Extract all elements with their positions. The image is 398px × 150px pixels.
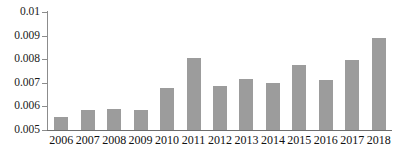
x-axis: 2006200720082009201020112012201320142015… [48, 132, 392, 150]
x-tick-label-2011: 2011 [180, 132, 206, 148]
x-tick-label-2009: 2009 [127, 132, 153, 148]
bar-2008 [107, 109, 121, 130]
x-tick-label-2018: 2018 [366, 132, 392, 148]
bar-2007 [81, 110, 95, 130]
y-tick-label: 0.009 [0, 30, 40, 42]
x-tick-label-2016: 2016 [313, 132, 339, 148]
y-tick-label: 0.01 [0, 6, 40, 18]
x-tick-label-2007: 2007 [74, 132, 100, 148]
bar-2013 [239, 79, 253, 130]
bar-chart: 0.0050.0060.0070.0080.0090.01 2006200720… [0, 0, 398, 150]
bar-2014 [266, 83, 280, 130]
x-tick-label-2008: 2008 [101, 132, 127, 148]
x-tick-label-2006: 2006 [48, 132, 74, 148]
y-tick-label: 0.008 [0, 53, 40, 65]
bar-2009 [134, 110, 148, 130]
x-tick-label-2017: 2017 [339, 132, 365, 148]
x-tick-label-2010: 2010 [154, 132, 180, 148]
x-tick-label-2012: 2012 [207, 132, 233, 148]
bar-2017 [345, 60, 359, 130]
bar-2015 [292, 65, 306, 130]
bar-2018 [372, 38, 386, 130]
x-tick-label-2014: 2014 [260, 132, 286, 148]
x-tick-label-2013: 2013 [233, 132, 259, 148]
y-tick-label: 0.005 [0, 124, 40, 136]
bar-2016 [319, 80, 333, 130]
y-tick-label: 0.006 [0, 100, 40, 112]
bar-2006 [54, 117, 68, 130]
bar-2011 [187, 58, 201, 130]
bar-2010 [160, 88, 174, 130]
y-tick-label: 0.007 [0, 77, 40, 89]
plot-area [48, 12, 392, 130]
x-tick-label-2015: 2015 [286, 132, 312, 148]
bar-2012 [213, 86, 227, 130]
